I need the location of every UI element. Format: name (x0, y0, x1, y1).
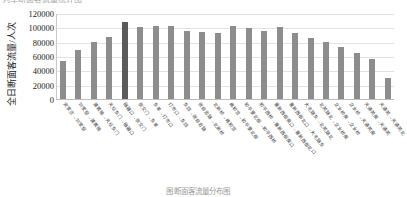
y-tick-label: 120000 (29, 10, 55, 19)
bar (168, 26, 174, 99)
bar-series (57, 14, 394, 99)
y-tick-label: 100000 (29, 24, 55, 33)
bar (308, 38, 314, 99)
bar (199, 32, 205, 99)
bar (369, 59, 375, 99)
y-tick-label: 80000 (33, 39, 54, 48)
chart-top-title: 列车断面客流量统计图 (2, 0, 262, 5)
bar (60, 61, 66, 99)
figure-caption: 图 断面客流量分布图 (0, 186, 396, 197)
bar (385, 78, 391, 100)
bar (323, 42, 329, 99)
bar (106, 37, 112, 99)
bar (261, 31, 267, 99)
y-axis-tick-labels: 020000400006000080000100000120000 (10, 12, 54, 102)
bar-chart: 全日断面客流量/人次 02000040000600008000010000012… (0, 12, 396, 164)
bar (338, 47, 344, 99)
bar (246, 28, 252, 99)
bar (215, 33, 221, 99)
x-tick-label: 天坛东门→磁器口 (107, 102, 136, 137)
bar (292, 33, 298, 99)
bar (122, 22, 128, 99)
bar (75, 50, 81, 99)
y-tick-label: 0 (50, 96, 54, 105)
x-axis-tick-labels: 宋家庄→刘家窑刘家窑→蒲黄榆蒲黄榆→天坛东门天坛东门→磁器口磁器口→崇文门崇文门… (56, 102, 394, 188)
bar (137, 27, 143, 99)
y-tick-label: 60000 (33, 53, 54, 62)
bar (184, 31, 190, 99)
bar (230, 26, 236, 99)
bar (354, 53, 360, 99)
plot-area (56, 14, 394, 100)
y-tick-label: 40000 (33, 67, 54, 76)
bar (91, 42, 97, 99)
y-tick-label: 20000 (33, 82, 54, 91)
bar (153, 26, 159, 99)
bar (277, 27, 283, 99)
